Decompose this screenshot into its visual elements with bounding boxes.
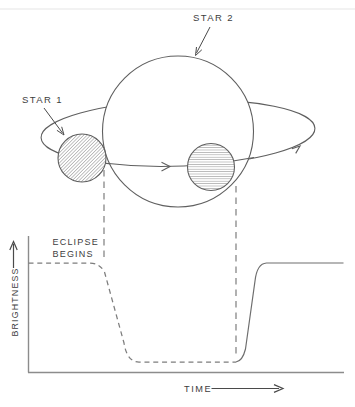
star1-disk-transit [188, 144, 235, 191]
brightness-axis-arrow-icon [10, 242, 17, 269]
star1-disk-left [58, 134, 106, 182]
eclipsing-binary-figure: STAR 2 STAR 1 ECLIPSE BEGINS BRIGHTNESS … [0, 0, 355, 407]
star2-pointer-arrow-icon [196, 27, 211, 56]
star2-disk [103, 56, 254, 207]
star2-label: STAR 2 [193, 12, 234, 23]
time-axis-label: TIME [184, 384, 212, 394]
figure-svg: STAR 2 STAR 1 ECLIPSE BEGINS BRIGHTNESS … [0, 0, 355, 407]
time-axis-arrow-icon [212, 385, 284, 393]
scan-artifact-band [0, 8, 355, 10]
eclipse-begins-label-line2: BEGINS [53, 249, 94, 259]
star1-pointer-arrow-icon [44, 108, 64, 135]
eclipse-begins-label-line1: ECLIPSE [53, 237, 99, 247]
brightness-axis-label: BRIGHTNESS [10, 267, 20, 336]
light-curve-dashed [29, 263, 237, 362]
light-curve-solid [236, 263, 344, 362]
star1-label: STAR 1 [22, 94, 63, 105]
